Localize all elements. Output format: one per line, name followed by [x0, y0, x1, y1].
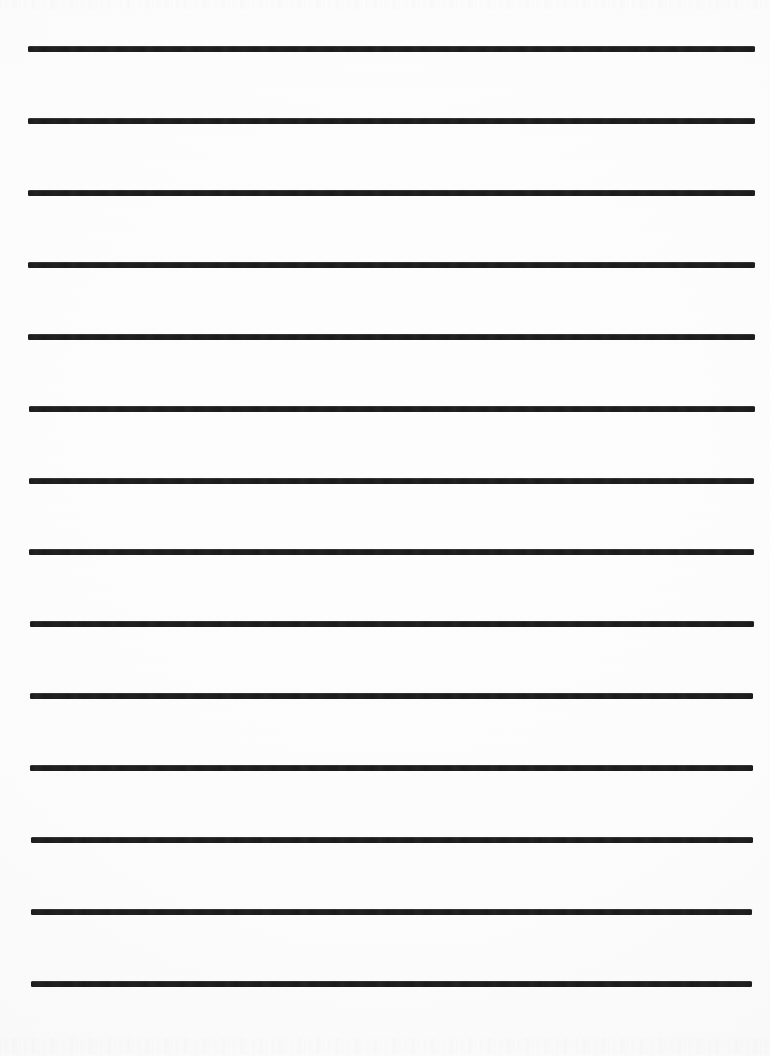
rule-line-7: [29, 478, 754, 484]
rule-line-3: [28, 190, 755, 196]
rule-line-12: [31, 837, 753, 843]
rule-line-11: [30, 765, 753, 771]
rule-line-13: [31, 909, 752, 915]
rule-line-14: [31, 981, 752, 987]
rule-line-8: [29, 549, 754, 555]
rule-line-4: [28, 262, 755, 268]
rule-line-6: [29, 406, 755, 412]
scanned-page: [0, 0, 770, 1056]
ruled-lines-group: [0, 0, 770, 1056]
rule-line-1: [28, 46, 755, 52]
rule-line-10: [30, 693, 753, 699]
rule-line-2: [28, 118, 755, 124]
rule-line-5: [28, 334, 755, 340]
rule-line-9: [30, 621, 754, 627]
